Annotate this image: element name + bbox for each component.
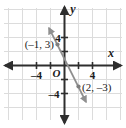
data-point-b <box>76 84 80 88</box>
y-axis-name: y <box>68 2 76 16</box>
y-tick-label-neg4: –4 <box>48 88 61 100</box>
point-label-b: (2, –3) <box>82 81 112 94</box>
x-axis-name: x <box>107 46 114 60</box>
graph-canvas: –4 4 4 –4 O x y (–1, 3) (2, –3) <box>0 0 126 128</box>
coordinate-plane-figure: –4 4 4 –4 O x y (–1, 3) (2, –3) <box>0 0 126 128</box>
origin-label: O <box>53 67 61 79</box>
y-tick-label-pos4: 4 <box>55 32 61 44</box>
grid-lines <box>4 8 122 120</box>
point-label-a: (–1, 3) <box>25 38 55 51</box>
x-tick-label-neg4: –4 <box>30 69 43 81</box>
x-tick-label-pos4: 4 <box>90 69 96 81</box>
